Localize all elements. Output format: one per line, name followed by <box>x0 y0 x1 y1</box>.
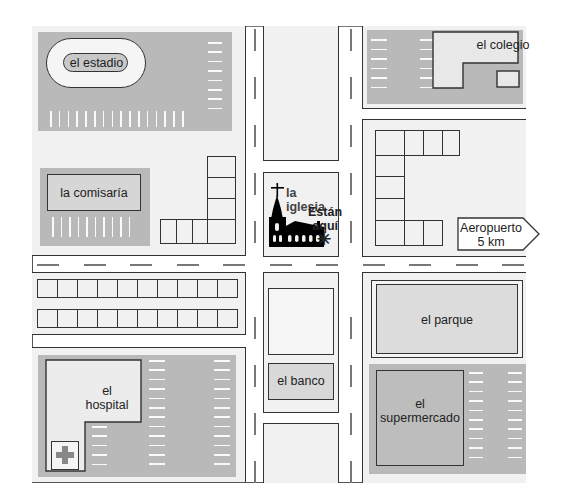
line-mark <box>77 279 98 298</box>
building-unit <box>375 198 405 221</box>
line-mark <box>254 173 256 195</box>
building-unit <box>404 220 424 246</box>
line-mark <box>469 447 483 449</box>
line-mark <box>214 407 230 409</box>
line-mark <box>350 413 352 435</box>
building-unit <box>192 219 208 244</box>
line-mark <box>208 61 222 63</box>
line-mark <box>502 264 524 266</box>
line-mark <box>173 111 175 127</box>
line-mark <box>92 445 107 447</box>
stadium-label: el estadio <box>63 56 130 70</box>
building-unit <box>375 155 405 177</box>
block-middle-top <box>263 26 339 161</box>
line-mark <box>270 264 292 266</box>
line-mark <box>137 309 158 328</box>
line-mark <box>137 279 158 298</box>
supermarket-label-line1: el <box>376 397 464 411</box>
line-mark <box>149 360 165 362</box>
line-mark <box>350 317 352 339</box>
line-mark <box>157 309 178 328</box>
airport-sign-line2: 5 km <box>457 235 525 249</box>
building-unit <box>375 130 405 156</box>
town-map: el estadio la comisaría <box>32 26 525 483</box>
block-middle-bottom <box>263 423 339 483</box>
line-mark <box>117 279 138 298</box>
line-mark <box>149 369 165 371</box>
line-mark <box>197 279 218 298</box>
line-mark <box>157 279 178 298</box>
building-unit <box>404 130 424 156</box>
line-mark <box>117 309 138 328</box>
line-mark <box>350 173 352 195</box>
line-mark <box>149 398 165 400</box>
line-mark <box>363 264 385 266</box>
line-mark <box>469 391 483 393</box>
line-mark <box>217 309 238 328</box>
line-mark <box>149 407 165 409</box>
line-mark <box>469 400 483 402</box>
line-mark <box>508 428 522 430</box>
block-stadium-police: el estadio la comisaría <box>32 26 246 256</box>
block-bank: el banco <box>263 272 339 413</box>
building-unit <box>207 177 236 199</box>
building-unit <box>423 130 443 156</box>
bank-lot <box>268 288 334 355</box>
line-mark <box>508 391 522 393</box>
line-mark <box>149 426 165 428</box>
line-mark <box>469 428 483 430</box>
line-mark <box>69 217 71 237</box>
line-mark <box>84 264 106 266</box>
asterisk-icon: ✳ <box>316 233 332 247</box>
line-mark <box>214 454 230 456</box>
line-mark <box>456 264 478 266</box>
line-mark <box>147 111 149 127</box>
line-mark <box>177 279 198 298</box>
line-mark <box>208 70 222 72</box>
block-row-houses <box>32 272 246 335</box>
line-mark <box>92 435 107 437</box>
line-mark <box>214 369 230 371</box>
line-mark <box>92 454 107 456</box>
line-mark <box>371 49 387 51</box>
medical-cross-icon <box>51 441 79 470</box>
line-mark <box>68 111 70 127</box>
line-mark <box>130 264 152 266</box>
line-mark <box>254 317 256 339</box>
line-mark <box>120 111 122 127</box>
supermarket-label-line2: supermercado <box>376 411 464 425</box>
line-mark <box>508 381 522 383</box>
line-mark <box>371 68 387 70</box>
line-mark <box>214 416 230 418</box>
line-mark <box>214 426 230 428</box>
line-mark <box>469 410 483 412</box>
line-mark <box>52 217 54 237</box>
line-mark <box>197 309 218 328</box>
line-mark <box>214 435 230 437</box>
line-mark <box>214 463 230 465</box>
line-mark <box>77 309 98 328</box>
line-mark <box>350 125 352 147</box>
bank-label: el banco <box>268 374 334 388</box>
line-mark <box>86 217 88 237</box>
line-mark <box>508 400 522 402</box>
line-mark <box>371 77 387 79</box>
line-mark <box>149 388 165 390</box>
line-mark <box>92 464 107 466</box>
line-mark <box>97 309 118 328</box>
line-mark <box>350 461 352 483</box>
line-mark <box>254 29 256 51</box>
line-mark <box>149 435 165 437</box>
line-mark <box>177 309 198 328</box>
line-mark <box>177 264 199 266</box>
line-mark <box>508 438 522 440</box>
line-mark <box>223 264 245 266</box>
line-mark <box>138 111 140 127</box>
line-mark <box>254 77 256 99</box>
line-mark <box>129 111 131 127</box>
building-unit <box>207 156 236 178</box>
line-mark <box>350 29 352 51</box>
building-unit <box>207 198 236 220</box>
line-mark <box>371 58 387 60</box>
line-mark <box>61 217 63 237</box>
